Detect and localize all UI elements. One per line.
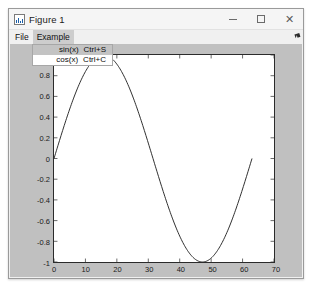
y-tick-label: 0 <box>46 156 50 164</box>
menu-option-cos[interactable]: cos(x) Ctrl+C <box>33 55 112 65</box>
y-tick-label: 0.4 <box>40 114 50 122</box>
y-tick-label: -0.8 <box>37 239 50 247</box>
menu-option-sin-accelerator: Ctrl+S <box>84 46 106 54</box>
y-tick-label: -1 <box>43 260 50 268</box>
y-tick-label: -0.4 <box>37 198 50 206</box>
close-button[interactable]: ✕ <box>275 9 303 29</box>
menu-item-file[interactable]: File <box>11 30 33 44</box>
x-tick-label: 70 <box>272 266 280 274</box>
x-tick-label: 0 <box>52 266 56 274</box>
plot-svg <box>54 55 274 262</box>
window-controls: ✕ <box>219 9 303 29</box>
menu-option-cos-label: cos(x) <box>56 56 78 64</box>
x-tick-label: 30 <box>145 266 153 274</box>
title-bar: Figure 1 ✕ <box>9 9 303 30</box>
menu-item-example[interactable]: Example <box>33 30 74 44</box>
menu-option-cos-accelerator: Ctrl+C <box>83 56 106 64</box>
mouse-cursor-icon <box>294 34 298 39</box>
figure-window: Figure 1 ✕ File Example 10.80.60.40.20-0… <box>8 8 304 279</box>
x-tick-label: 60 <box>240 266 248 274</box>
screenshot-root: Figure 1 ✕ File Example 10.80.60.40.20-0… <box>0 0 313 295</box>
menu-bar: File Example <box>9 30 303 44</box>
y-tick-label: 0.6 <box>40 93 50 101</box>
y-tick-label: 0.2 <box>40 135 50 143</box>
plot-axes: 10.80.60.40.20-0.2-0.4-0.6-0.8-1 0102030… <box>53 54 275 263</box>
minimize-button[interactable] <box>219 9 247 29</box>
figure-icon <box>14 14 25 25</box>
x-tick-label: 40 <box>177 266 185 274</box>
menu-option-sin-label: sin(x) <box>59 46 79 54</box>
example-menu-dropdown: sin(x) Ctrl+S cos(x) Ctrl+C <box>32 44 113 66</box>
maximize-button[interactable] <box>247 9 275 29</box>
sin-curve <box>54 55 252 262</box>
y-tick-label: -0.6 <box>37 218 50 226</box>
tick-marks <box>54 55 274 262</box>
window-title: Figure 1 <box>29 14 65 25</box>
y-tick-label: 0.8 <box>40 72 50 80</box>
figure-canvas: 10.80.60.40.20-0.2-0.4-0.6-0.8-1 0102030… <box>10 44 302 277</box>
y-tick-label: -0.2 <box>37 177 50 185</box>
close-icon: ✕ <box>285 14 294 25</box>
menu-option-sin[interactable]: sin(x) Ctrl+S <box>33 45 112 55</box>
x-tick-label: 50 <box>208 266 216 274</box>
x-tick-label: 10 <box>82 266 90 274</box>
x-tick-label: 20 <box>113 266 121 274</box>
